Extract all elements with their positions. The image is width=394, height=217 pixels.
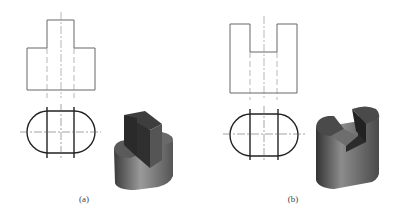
panel-b-front-view: [230, 16, 297, 100]
panel-a-top-view: [20, 104, 101, 160]
figure-canvas: [0, 0, 394, 217]
panel-b-isometric-solid: [316, 107, 379, 190]
panel-a-front-view: [27, 12, 95, 98]
panel-b-caption: (b): [288, 194, 299, 204]
panel-a-isometric-solid: [114, 111, 173, 190]
panel-a-caption: (a): [79, 194, 89, 204]
panel-b-top-view: [223, 106, 305, 162]
